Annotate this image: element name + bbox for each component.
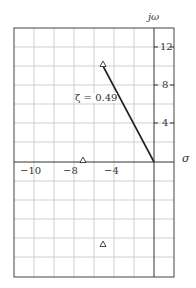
x-tick-minus8: −8 (63, 166, 78, 176)
x-axis-label: σ (182, 154, 190, 164)
pole-marker-upper (100, 61, 106, 67)
y-axis-label: jω (148, 12, 159, 22)
y-tick-4: 4 (162, 118, 168, 128)
x-tick-minus4: −4 (104, 166, 119, 176)
y-tick-8: 8 (162, 80, 168, 90)
zeta-annotation: ζ = 0.49 (75, 93, 117, 103)
grid (14, 28, 174, 277)
pole-marker-real (80, 157, 86, 163)
y-tick-12: 12 (160, 42, 173, 52)
damping-line (103, 66, 154, 162)
x-tick-minus10: −10 (20, 166, 41, 176)
pole-marker-lower (100, 241, 106, 247)
